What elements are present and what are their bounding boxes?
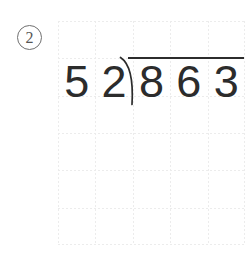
worksheet-page: 2 5 2 8 6 3 [0, 0, 252, 255]
problem-number-label: 2 [26, 29, 34, 45]
dividend-digit: 6 [170, 58, 207, 105]
problem-number-marker: 2 [17, 25, 42, 50]
dividend-digit: 8 [133, 58, 170, 105]
dividend-digit: 3 [208, 58, 245, 105]
divisor-digit: 5 [58, 58, 95, 105]
long-division-expression: 5 2 8 6 3 [58, 21, 245, 245]
